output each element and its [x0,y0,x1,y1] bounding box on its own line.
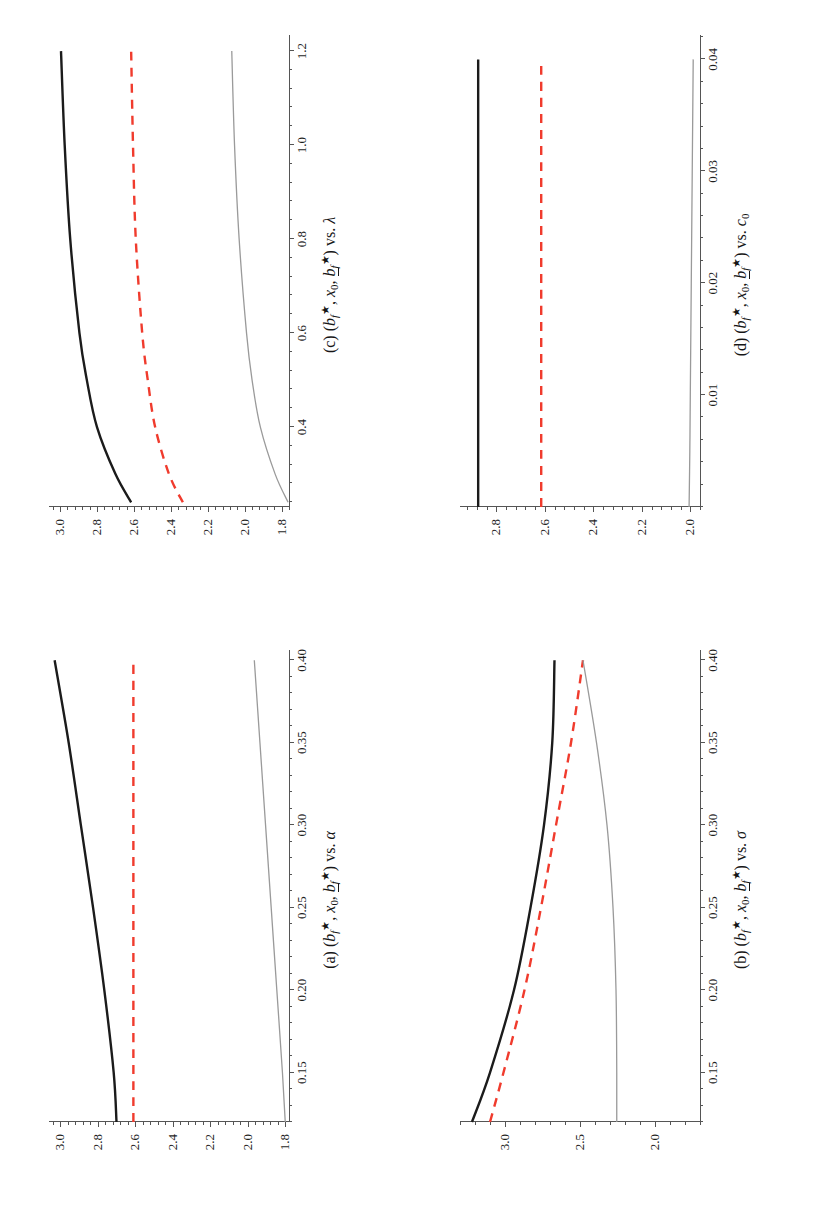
y-minor-tick [700,1122,701,1125]
y-tick [210,1122,211,1127]
x-minor-tick [700,349,703,350]
x-minor-tick [289,675,292,676]
y-minor-tick [603,507,604,510]
x-tick-label: 0.40 [705,648,721,671]
x-minor-tick [700,484,703,485]
x-minor-tick [289,1088,292,1089]
x-minor-tick [289,483,292,484]
panel-d: 0.010.020.030.042.82.62.42.22.0 (d) (bf★… [411,0,822,610]
y-minor-tick [274,507,275,510]
y-tick-label: 2.2 [199,519,215,535]
y-tick [641,507,642,512]
y-minor-tick [126,507,127,510]
y-tick-label: 2.2 [202,1134,218,1150]
x-minor-tick [700,807,703,808]
y-minor-tick [67,1122,68,1125]
x-tick [289,989,294,990]
y-tick [60,507,61,512]
x-tick-label: 0.20 [705,978,721,1001]
y-tick-label: 2.6 [125,519,141,535]
y-tick-label: 2.8 [488,519,504,535]
series-x0 [131,51,183,502]
x-minor-tick [289,939,292,940]
x-tick [700,1071,705,1072]
x-minor-tick [289,351,292,352]
y-tick [505,1122,506,1127]
y-minor-tick [82,507,83,510]
y-minor-tick [52,1122,53,1125]
x-tick [289,1071,294,1072]
x-tick [289,50,294,51]
x-minor-tick [700,305,703,306]
y-tick-label: 2.2 [633,519,649,535]
y-minor-tick [476,507,477,510]
y-minor-tick [141,507,142,510]
x-minor-tick [289,807,292,808]
y-tick [172,1122,173,1127]
x-tick-label: 0.25 [294,896,310,919]
x-minor-tick [289,972,292,973]
y-tick [544,507,545,512]
x-minor-tick [289,1038,292,1039]
panel-c-curves [49,37,289,507]
y-tick [97,507,98,512]
y-tick-label: 2.8 [89,1134,105,1150]
y-minor-tick [52,507,53,510]
x-minor-tick [289,88,292,89]
x-minor-tick [700,774,703,775]
x-tick [700,394,705,395]
panel-b-curves [460,652,700,1122]
x-minor-tick [700,327,703,328]
x-tick-label: 0.6 [294,325,310,341]
y-minor-tick [180,1122,181,1125]
y-minor-tick [120,1122,121,1125]
y-tick [285,1122,286,1127]
y-minor-tick [475,1122,476,1125]
panel-a-curves [49,652,289,1122]
y-tick [496,507,497,512]
y-tick-label: 3.0 [497,1134,513,1150]
x-minor-tick [700,923,703,924]
x-tick [700,659,705,660]
series-b_f_lower_star [231,51,287,502]
y-minor-tick [127,1122,128,1125]
x-minor-tick [289,295,292,296]
y-minor-tick [632,507,633,510]
x-minor-tick [700,372,703,373]
x-tick-label: 0.15 [705,1061,721,1084]
y-minor-tick [490,1122,491,1125]
x-minor-tick [700,1005,703,1006]
x-minor-tick [289,389,292,390]
x-minor-tick [700,956,703,957]
x-tick-label: 0.01 [705,384,721,407]
x-minor-tick [700,708,703,709]
x-minor-tick [700,215,703,216]
y-minor-tick [612,507,613,510]
y-tick [655,1122,656,1127]
y-tick-label: 2.0 [236,519,252,535]
x-minor-tick [700,193,703,194]
y-minor-tick [610,1122,611,1125]
x-tick [289,906,294,907]
y-minor-tick [467,507,468,510]
y-minor-tick [651,507,652,510]
x-minor-tick [289,1104,292,1105]
y-minor-tick [202,1122,203,1125]
panel-b-plot-area [460,652,700,1122]
x-minor-tick [289,163,292,164]
x-minor-tick [289,257,292,258]
y-minor-tick [515,507,516,510]
y-minor-tick [165,1122,166,1125]
x-minor-tick [289,407,292,408]
y-minor-tick [565,1122,566,1125]
x-minor-tick [700,791,703,792]
x-minor-tick [700,873,703,874]
x-minor-tick [700,758,703,759]
y-minor-tick [193,507,194,510]
x-tick [700,989,705,990]
y-minor-tick [75,1122,76,1125]
x-minor-tick [700,1022,703,1023]
x-minor-tick [700,725,703,726]
y-minor-tick [90,1122,91,1125]
y-minor-tick [520,1122,521,1125]
